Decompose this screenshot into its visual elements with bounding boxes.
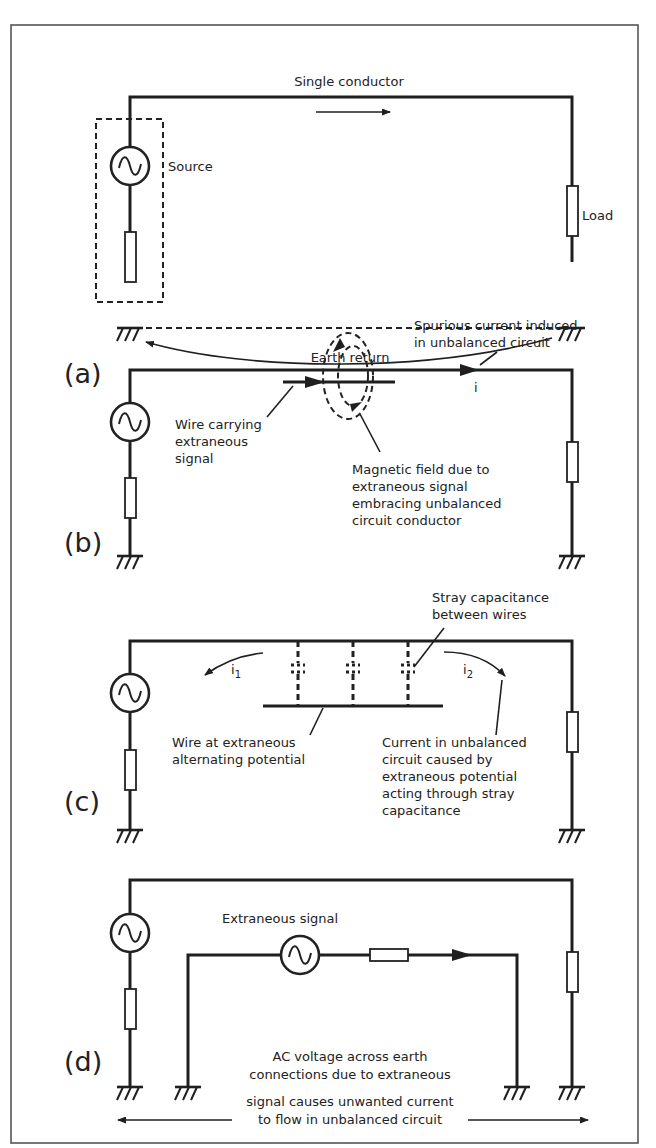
panel-c-letter: (c): [64, 786, 100, 817]
source-label: Source: [168, 159, 213, 174]
resistor-icon: [125, 750, 136, 790]
load-resistor-icon: [567, 952, 578, 992]
signal-arrow-icon: [452, 949, 472, 961]
field-label-4: circuit conductor: [352, 513, 462, 528]
panel-d: Extraneous signal AC voltage across eart…: [64, 880, 588, 1127]
note-line-2: connections due to extraneous: [249, 1067, 451, 1082]
single-conductor-label: Single conductor: [294, 74, 404, 89]
stray-capacitor-icon: [291, 641, 305, 706]
wire-potential-label-2: alternating potential: [172, 752, 305, 767]
ground-icon: [117, 830, 143, 843]
stray-capacitance-label-2: between wires: [432, 607, 527, 622]
note-line-4: to flow in unbalanced circuit: [258, 1112, 442, 1127]
circuit-figure: Single conductor Source Load Earth retur…: [0, 0, 656, 1148]
ground-icon: [117, 1087, 143, 1100]
ground-icon: [117, 328, 143, 341]
field-label-3: embracing unbalanced: [352, 496, 502, 511]
wire-label-3: signal: [175, 451, 213, 466]
i1-label: i1: [231, 662, 241, 680]
figure-frame: [11, 25, 638, 1143]
field-label-2: extraneous signal: [352, 479, 468, 494]
extraneous-resistor-icon: [370, 949, 408, 961]
current-explanation-4: acting through stray: [382, 786, 515, 801]
wire-label-2: extraneous: [175, 434, 248, 449]
ground-icon: [504, 1087, 530, 1100]
panel-a-letter: (a): [64, 358, 102, 389]
source-resistor-icon: [125, 232, 136, 282]
i2-arrow: [444, 652, 505, 676]
magnetic-field-outer: [323, 333, 373, 419]
panel-d-letter: (d): [64, 1046, 102, 1077]
ground-icon: [559, 556, 585, 569]
resistor-icon: [125, 989, 136, 1029]
current-explanation-5: capacitance: [382, 803, 461, 818]
stray-capacitance-label-1: Stray capacitance: [432, 590, 549, 605]
panel-c: i1 i2 Stray capacitance between wires Wi…: [64, 590, 585, 843]
resistor-icon: [125, 478, 136, 518]
induced-current-arrow-icon: [460, 364, 479, 376]
current-explanation-2: circuit caused by: [382, 752, 493, 767]
field-label-1: Magnetic field due to: [352, 462, 490, 477]
spurious-current-label-1: Spurious current induced: [414, 318, 578, 333]
wire-potential-label-1: Wire at extraneous: [172, 735, 296, 750]
load-resistor-icon: [567, 442, 578, 482]
current-explanation-1: Current in unbalanced: [382, 735, 527, 750]
current-symbol-i: i: [474, 380, 478, 395]
i2-label: i2: [463, 662, 473, 680]
ground-icon: [117, 556, 143, 569]
signal-arrow-icon: [305, 376, 325, 388]
load-resistor-icon: [567, 186, 578, 236]
spurious-current-label-2: in unbalanced circuit: [414, 335, 550, 350]
load-label: Load: [582, 208, 613, 223]
earth-return-label: Earth return: [311, 350, 390, 365]
stray-capacitor-icon: [401, 641, 415, 706]
stray-capacitor-icon: [346, 641, 360, 706]
ground-icon: [559, 830, 585, 843]
load-resistor-icon: [567, 712, 578, 752]
note-line-1: AC voltage across earth: [272, 1049, 427, 1064]
current-explanation-3: extraneous potential: [382, 769, 517, 784]
ground-icon: [175, 1087, 201, 1100]
panel-b-letter: (b): [64, 527, 102, 558]
ground-icon: [559, 1087, 585, 1100]
note-line-3: signal causes unwanted current: [246, 1094, 453, 1109]
wire-label-1: Wire carrying: [175, 417, 262, 432]
extraneous-signal-label: Extraneous signal: [222, 911, 338, 926]
